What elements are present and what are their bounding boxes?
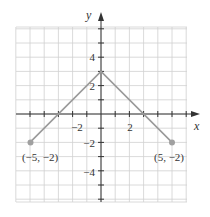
- y-tick-label: 2: [90, 80, 96, 92]
- y-tick-label: 4: [90, 51, 96, 63]
- y-tick-label: −4: [83, 166, 95, 178]
- y-axis-label: y: [85, 8, 92, 22]
- endpoint-right: [169, 140, 175, 146]
- endpoint-left: [28, 140, 34, 146]
- function-graph: x y −2 2 4 2 −2 −4 (−5, −2) (5, −2): [0, 0, 210, 217]
- y-tick-label: −2: [83, 137, 95, 149]
- y-axis-arrow-icon: [98, 12, 104, 21]
- x-axis-label: x: [193, 119, 200, 133]
- x-axis-arrow-icon: [191, 111, 200, 117]
- x-tick-label: 2: [127, 121, 133, 133]
- x-tick-label: −2: [71, 121, 83, 133]
- point-label-right: (5, −2): [154, 151, 184, 164]
- point-label-left: (−5, −2): [22, 151, 59, 164]
- y-axis: [98, 12, 104, 202]
